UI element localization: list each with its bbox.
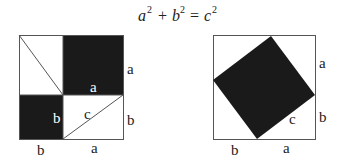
label-inner-b: b [53, 110, 61, 126]
op-plus: + [158, 7, 167, 24]
label-bottom-left: b [37, 142, 45, 158]
exp-b: 2 [180, 4, 185, 15]
exp-c: 2 [212, 4, 217, 15]
equation-title: a 2 + b 2 = c 2 [138, 4, 217, 24]
label-right-top: a [127, 61, 134, 77]
label-right-bottom: b [319, 109, 327, 125]
label-hypotenuse: c [84, 106, 91, 122]
pythagorean-proof-diagram: a 2 + b 2 = c 2 a b b a a b c a b b a c [0, 0, 343, 160]
right-figure: a b b a c [213, 36, 327, 159]
label-bottom-left: b [231, 142, 239, 158]
op-equals: = [190, 7, 199, 24]
left-figure: a b b a a b c [19, 35, 135, 158]
label-right-bottom: b [127, 112, 135, 128]
label-right-top: a [319, 55, 326, 71]
term-b: b [172, 7, 180, 24]
square-c-squared [213, 36, 315, 139]
term-c: c [204, 7, 211, 24]
label-bottom-right: a [91, 140, 98, 156]
exp-a: 2 [147, 4, 152, 15]
label-hypotenuse: c [289, 111, 296, 127]
diagonal-bottom-right [63, 95, 123, 139]
label-bottom-right: a [283, 140, 290, 156]
label-inner-a: a [90, 79, 97, 95]
term-a: a [138, 7, 146, 24]
diagonal-top-left [19, 35, 63, 95]
